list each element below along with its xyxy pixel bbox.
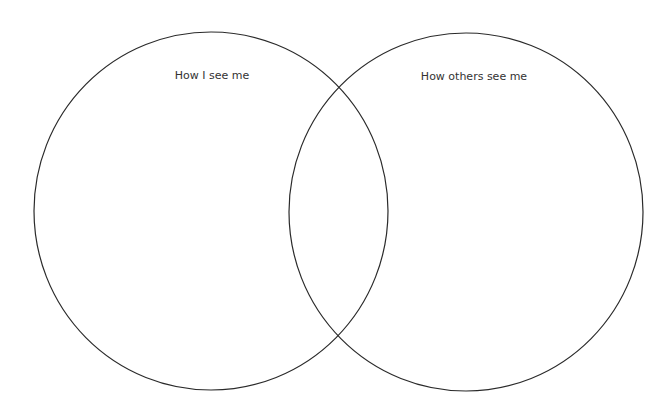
right-set-label: How others see me: [421, 70, 527, 83]
venn-diagram: [0, 0, 672, 411]
left-set-label: How I see me: [175, 69, 249, 82]
right-set-circle: [289, 33, 643, 391]
left-set-circle: [34, 32, 388, 390]
